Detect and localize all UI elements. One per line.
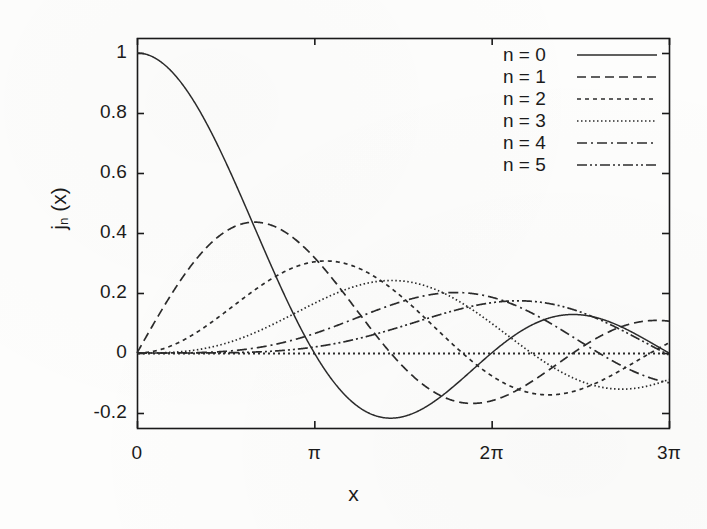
legend-line-sample-3 [575,114,663,128]
legend-line-sample-5 [575,158,663,172]
x-axis-title: x [0,482,707,506]
legend-label-5: n = 5 [503,154,575,176]
y-axis-title-base: j [47,225,70,230]
legend-label-2: n = 2 [503,88,575,110]
series-line-n-1 [137,222,669,403]
legend-item-0: n = 0 [503,44,663,66]
legend-line-sample-1 [575,70,663,84]
legend-line-sample-0 [575,48,663,62]
y-axis-title-subscript: n [56,218,71,225]
legend-label-4: n = 4 [503,132,575,154]
legend-item-3: n = 3 [503,110,663,132]
y-axis-title: jn (x) [47,163,72,253]
legend-line-sample-4 [575,136,663,150]
series-line-n-4 [137,293,669,383]
legend-label-3: n = 3 [503,110,575,132]
series-line-n-2 [137,261,669,395]
y-axis-title-arg: (x) [47,187,70,217]
legend-label-1: n = 1 [503,66,575,88]
series-line-n-5 [137,301,669,355]
figure-spherical-bessel-plot: 10.80.60.40.20-0.2 0π2π3π jn (x) x n = 0… [0,0,707,529]
legend-item-2: n = 2 [503,88,663,110]
legend-item-1: n = 1 [503,66,663,88]
legend-line-sample-2 [575,92,663,106]
legend-item-4: n = 4 [503,132,663,154]
legend: n = 0n = 1n = 2n = 3n = 4n = 5 [503,44,663,176]
series-line-n-3 [137,280,669,389]
legend-label-0: n = 0 [503,44,575,66]
legend-item-5: n = 5 [503,154,663,176]
